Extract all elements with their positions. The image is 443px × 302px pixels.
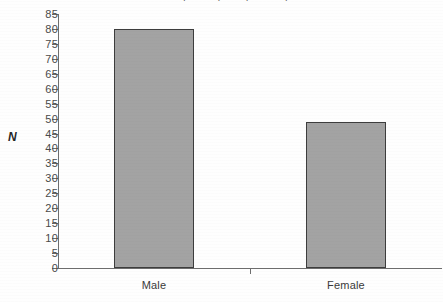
- category-label-female: Female: [327, 279, 365, 291]
- tick-label: 40: [12, 142, 58, 154]
- category-label-male: Male: [142, 279, 167, 291]
- tick-label: 70: [12, 53, 58, 65]
- y-axis-line: [58, 14, 59, 269]
- tick-label: 55: [12, 98, 58, 110]
- bar-female: [306, 122, 386, 268]
- tick-label: 50: [12, 113, 58, 125]
- tick-label: 85: [12, 8, 58, 20]
- tick-label: 75: [12, 38, 58, 50]
- tick-label: 20: [12, 202, 58, 214]
- category-separator-tick: [250, 268, 251, 274]
- tick-label: 15: [12, 217, 58, 229]
- tick-label: 25: [12, 187, 58, 199]
- plot-area: N 8580757065605550454035302520151050 Mal…: [0, 0, 443, 302]
- tick-label: 80: [12, 23, 58, 35]
- tick-label: 30: [12, 172, 58, 184]
- tick-label: 45: [12, 128, 58, 140]
- tick-label: 35: [12, 157, 58, 169]
- bar-chart: Participants by Sex (N = 129) N 85807570…: [0, 0, 443, 302]
- tick-label: 10: [12, 232, 58, 244]
- bar-male: [114, 29, 194, 268]
- tick-label: 5: [12, 247, 58, 259]
- tick-label: 0: [12, 262, 58, 274]
- tick-label: 60: [12, 83, 58, 95]
- tick-label: 65: [12, 68, 58, 80]
